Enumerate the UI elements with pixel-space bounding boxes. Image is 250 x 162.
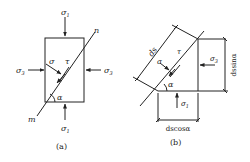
element-rectangle [45, 38, 84, 102]
figure-b-labels: ds σ τ α σ3 σ1 dssinα dscosα (b) [146, 45, 238, 147]
figure-a [28, 17, 101, 120]
alpha-label: α [57, 93, 63, 102]
svg-text:σ3: σ3 [210, 55, 218, 64]
dscos-label: dscosα [166, 125, 191, 133]
svg-text:σ3: σ3 [16, 66, 25, 76]
sigma-label: σ [49, 57, 55, 66]
svg-text:σ1: σ1 [61, 124, 70, 134]
sigma-label-b: σ [157, 58, 162, 66]
m-label: m [28, 115, 36, 124]
svg-text:σ1: σ1 [181, 100, 189, 109]
svg-text:σ1: σ1 [61, 8, 70, 18]
ds-label: ds [146, 45, 159, 58]
dssin-label: dssinα [230, 53, 238, 76]
figure-a-labels: σ1 σ1 σ3 σ3 σ τ α m n (a) [16, 8, 113, 151]
alpha-arc-b [164, 84, 167, 91]
caption-a: (a) [56, 142, 67, 151]
n-label: n [94, 26, 99, 35]
alpha-label-b: α [168, 80, 174, 89]
svg-text:σ3: σ3 [104, 66, 113, 76]
tau-label-b: τ [177, 48, 181, 56]
caption-b: (b) [170, 138, 181, 147]
stress-diagram: σ1 σ1 σ3 σ3 σ τ α m n (a) [0, 0, 250, 162]
alpha-arc [50, 94, 55, 102]
tau-label: τ [65, 57, 70, 66]
plane-m-n-line [37, 32, 95, 116]
inclined-plane-line [140, 31, 204, 106]
shear-line-b [170, 65, 180, 77]
